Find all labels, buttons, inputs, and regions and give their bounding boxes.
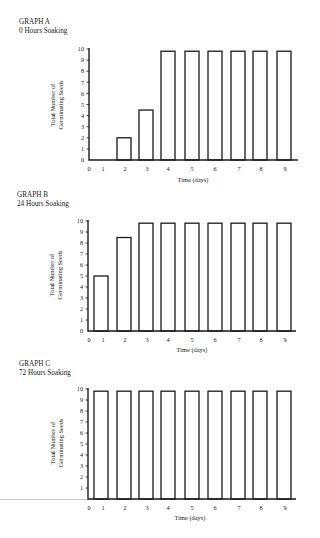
y-tick-label: 5 (80, 272, 83, 279)
bar-day-2 (117, 238, 131, 332)
graph-b: GRAPH B 24 Hours Soaking Total Number of… (17, 191, 296, 354)
x-tick-label: 4 (166, 165, 169, 172)
x-tick-label: 0 (87, 165, 90, 172)
bar-day-3 (139, 391, 153, 499)
y-tick-label: 9 (80, 396, 83, 403)
graph-c-x-ticks: 0123456789 (87, 504, 286, 511)
y-tick-label: 2 (80, 473, 83, 480)
bar-day-3 (139, 223, 153, 331)
x-tick-label: 5 (190, 336, 193, 343)
graph-a-subtitle: 0 Hours Soaking (19, 27, 68, 35)
graph-c-y-ticks: 12345678910 (77, 385, 88, 491)
graph-c: GRAPH C 72 Hours Soaking Total Number of… (0, 360, 296, 522)
y-tick-label: 8 (81, 67, 84, 74)
y-tick-label: 1 (80, 316, 83, 323)
bar-day-9 (277, 223, 291, 331)
y-tick-label: 3 (80, 294, 83, 301)
graph-c-title: GRAPH C (19, 360, 50, 368)
svg-text:Germinating Seeds: Germinating Seeds (57, 418, 64, 467)
y-tick-label: 2 (81, 134, 84, 141)
x-tick-label: 9 (283, 165, 286, 172)
y-tick-label: 6 (80, 261, 83, 268)
x-tick-label: 0 (87, 504, 90, 511)
x-tick-label: 3 (145, 165, 148, 172)
x-tick-label: 1 (101, 504, 104, 511)
bar-day-7 (231, 391, 245, 499)
bar-day-5 (185, 223, 199, 331)
graph-b-bars (94, 223, 291, 331)
x-tick-label: 0 (87, 336, 90, 343)
x-tick-label: 5 (190, 504, 193, 511)
x-tick-label: 9 (283, 336, 286, 343)
x-tick-label: 3 (145, 336, 148, 343)
y-tick-label: 10 (77, 385, 83, 392)
bar-day-6 (208, 223, 222, 331)
y-tick-label: 0 (80, 327, 83, 334)
x-tick-label: 8 (259, 165, 262, 172)
bar-day-8 (253, 51, 267, 160)
graph-a-title: GRAPH A (19, 18, 51, 26)
bar-day-8 (253, 391, 267, 499)
bar-day-5 (185, 391, 199, 499)
y-tick-label: 6 (80, 429, 83, 436)
graph-b-title: GRAPH B (17, 191, 48, 199)
y-tick-label: 8 (80, 239, 83, 246)
bar-day-6 (208, 391, 222, 499)
graph-a-y-axis-label: Total Number of Germinating Seeds (49, 80, 64, 129)
graph-a-y-ticks: 012345678910 (78, 45, 89, 163)
bar-day-1 (94, 391, 108, 499)
graph-c-bars (94, 391, 291, 499)
svg-text:Total Number of: Total Number of (49, 421, 56, 464)
graph-a-bars (117, 51, 291, 160)
x-tick-label: 7 (237, 165, 240, 172)
bar-day-7 (231, 223, 245, 331)
x-tick-label: 1 (101, 336, 104, 343)
y-tick-label: 9 (80, 228, 83, 235)
y-tick-label: 8 (80, 407, 83, 414)
svg-text:Total Number of: Total Number of (49, 83, 56, 126)
bar-day-7 (231, 51, 245, 160)
graph-b-x-axis-label: Time (days) (177, 346, 208, 354)
bar-day-3 (139, 110, 153, 160)
x-tick-label: 9 (283, 504, 286, 511)
bar-day-1 (94, 276, 108, 331)
x-tick-label: 2 (123, 336, 126, 343)
y-tick-label: 4 (80, 451, 83, 458)
graph-c-x-axis-label: Time (days) (175, 514, 206, 522)
y-tick-label: 7 (81, 79, 84, 86)
svg-text:Germinating Seeds: Germinating Seeds (56, 250, 63, 299)
seed-germination-figure: GRAPH A 0 Hours Soaking Total Number of … (0, 0, 320, 538)
svg-text:Germinating Seeds: Germinating Seeds (57, 80, 64, 129)
graph-a-x-axis-label: Time (days) (178, 176, 209, 184)
y-tick-label: 3 (81, 123, 84, 130)
y-tick-label: 9 (81, 56, 84, 63)
graph-b-x-ticks: 0123456789 (87, 336, 286, 343)
bar-day-6 (208, 51, 222, 160)
bar-day-4 (161, 223, 175, 331)
x-tick-label: 7 (237, 336, 240, 343)
y-tick-label: 0 (81, 156, 84, 163)
x-tick-label: 4 (166, 336, 169, 343)
x-tick-label: 8 (259, 336, 262, 343)
y-tick-label: 7 (80, 418, 83, 425)
bar-day-4 (161, 51, 175, 160)
x-tick-label: 5 (190, 165, 193, 172)
x-tick-label: 7 (237, 504, 240, 511)
x-tick-label: 1 (101, 165, 104, 172)
x-tick-label: 6 (213, 165, 216, 172)
y-tick-label: 1 (81, 145, 84, 152)
y-tick-label: 4 (80, 283, 83, 290)
svg-text:Total Number of: Total Number of (48, 253, 55, 296)
y-tick-label: 5 (81, 101, 84, 108)
x-tick-label: 6 (213, 336, 216, 343)
bar-day-9 (277, 391, 291, 499)
bar-day-5 (185, 51, 199, 160)
x-tick-label: 3 (145, 504, 148, 511)
x-tick-label: 6 (213, 504, 216, 511)
y-tick-label: 7 (80, 250, 83, 257)
graph-b-y-axis-label: Total Number of Germinating Seeds (48, 250, 63, 299)
bar-day-4 (161, 391, 175, 499)
y-tick-label: 10 (78, 45, 84, 52)
graph-b-y-ticks: 012345678910 (77, 217, 88, 334)
y-tick-label: 4 (81, 112, 84, 119)
